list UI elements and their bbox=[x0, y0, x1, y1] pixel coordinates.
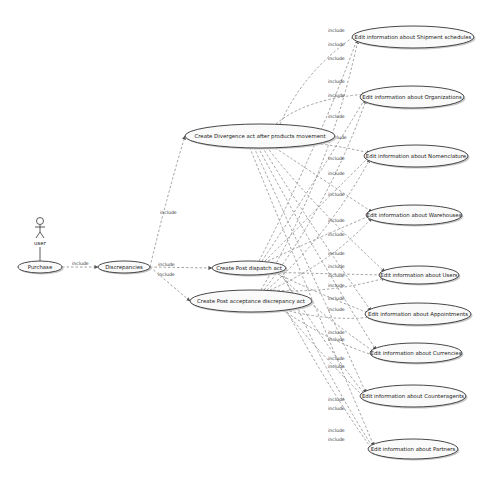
include-edge bbox=[265, 156, 370, 261]
include-label: include bbox=[72, 261, 89, 266]
include-label: include bbox=[328, 93, 345, 98]
use-case-label: Create Post acceptance discrepancy act bbox=[197, 298, 305, 305]
include-label: include bbox=[328, 114, 345, 119]
actor-head-icon bbox=[37, 218, 44, 225]
include-label: include bbox=[158, 272, 175, 277]
include-edge bbox=[268, 143, 372, 212]
include-edge bbox=[270, 218, 372, 290]
include-edge bbox=[280, 34, 358, 124]
include-label: include bbox=[328, 397, 345, 402]
use-case-shipment[interactable]: Edit information about Shipment schedule… bbox=[352, 26, 476, 50]
include-label: include bbox=[328, 428, 345, 433]
include-edge bbox=[150, 267, 212, 268]
use-case-label: Edit information about Appointments bbox=[368, 311, 468, 318]
include-label: include bbox=[328, 171, 345, 176]
use-case-organizations[interactable]: Edit information about Organizations bbox=[360, 86, 466, 110]
include-label: include bbox=[328, 296, 345, 301]
include-label: include bbox=[328, 364, 345, 369]
use-case-label: Edit information about Nomenclature bbox=[366, 153, 467, 159]
use-case-divergence[interactable]: Create Divergence act after products mov… bbox=[185, 124, 337, 150]
include-label: include bbox=[158, 262, 175, 267]
use-case-warehouses[interactable]: Edit information about Warehouses bbox=[366, 205, 464, 227]
use-case-label: Edit information about Shipment schedule… bbox=[355, 34, 472, 41]
include-label: include bbox=[328, 283, 345, 288]
include-label: include bbox=[328, 56, 345, 61]
include-label: include bbox=[328, 79, 345, 84]
use-case-discrepancies[interactable]: Discrepancies bbox=[98, 261, 152, 275]
include-label: include bbox=[328, 406, 345, 411]
use-case-appointments[interactable]: Edit information about Appointments bbox=[365, 303, 473, 327]
use-case-label: Edit information about Users bbox=[380, 272, 458, 278]
actor-label: user bbox=[34, 240, 47, 246]
actor-user[interactable]: user bbox=[34, 218, 47, 247]
include-label: include bbox=[328, 28, 345, 33]
include-label: include bbox=[328, 356, 345, 361]
include-edge bbox=[268, 215, 372, 261]
use-case-label: Edit information about Warehouses bbox=[366, 212, 461, 218]
use-case-purchase[interactable]: Purchase bbox=[18, 261, 64, 275]
include-label: include bbox=[328, 42, 345, 47]
include-labels: includeincludeincludeincludeincludeinclu… bbox=[72, 28, 347, 442]
include-edge bbox=[262, 97, 366, 261]
use-case-partners[interactable]: Edit information about Partners bbox=[368, 439, 460, 461]
include-edge bbox=[282, 308, 366, 399]
include-label: include bbox=[160, 210, 177, 215]
use-case-label: Edit information about Currencies bbox=[371, 350, 462, 356]
use-case-counteragents[interactable]: Edit information about Counteragents bbox=[360, 385, 468, 409]
include-label: include bbox=[328, 192, 345, 197]
use-case-label: Discrepancies bbox=[105, 264, 143, 271]
diagram-svg: includeincludeincludeincludeincludeinclu… bbox=[0, 0, 491, 481]
use-case-post-dispatch[interactable]: Create Post dispatch act bbox=[212, 261, 288, 277]
include-label: include bbox=[328, 307, 345, 312]
include-label: include bbox=[328, 264, 345, 269]
use-case-label: Create Divergence act after products mov… bbox=[194, 133, 325, 140]
use-case-post-acceptance[interactable]: Create Post acceptance discrepancy act bbox=[190, 290, 314, 314]
use-case-label: Edit information about Counteragents bbox=[362, 393, 464, 400]
use-case-label: Purchase bbox=[28, 264, 53, 270]
use-case-label: Edit information about Organizations bbox=[362, 94, 462, 101]
include-edge bbox=[260, 143, 371, 311]
include-label: include bbox=[328, 337, 345, 342]
include-label: include bbox=[328, 232, 345, 237]
use-case-users[interactable]: Edit information about Users bbox=[379, 266, 461, 286]
use-case-diagram: includeincludeincludeincludeincludeinclu… bbox=[0, 0, 491, 481]
include-edge bbox=[150, 136, 185, 267]
use-case-currencies[interactable]: Edit information about Currencies bbox=[370, 343, 464, 365]
include-label: include bbox=[328, 437, 345, 442]
include-label: include bbox=[328, 156, 345, 161]
include-label: include bbox=[328, 273, 345, 278]
use-case-label: Edit information about Partners bbox=[371, 446, 456, 452]
include-label: include bbox=[328, 251, 345, 256]
include-label: include bbox=[328, 218, 345, 223]
include-label: include bbox=[328, 330, 345, 335]
use-case-nomenclature[interactable]: Edit information about Nomenclature bbox=[364, 145, 470, 169]
use-case-nodes: PurchaseDiscrepanciesCreate Divergence a… bbox=[18, 26, 476, 461]
include-edge bbox=[277, 272, 376, 353]
use-case-label: Create Post dispatch act bbox=[216, 265, 282, 272]
